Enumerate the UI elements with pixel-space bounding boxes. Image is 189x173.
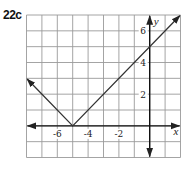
x-tick-label: -6 — [53, 129, 62, 139]
coordinate-graph: xy -6-4-2642 — [0, 0, 189, 173]
y-tick-label: 6 — [140, 26, 146, 36]
x-tick-label: -4 — [84, 129, 93, 139]
grid-lines — [27, 15, 181, 158]
tick-labels: -6-4-2642 — [50, 26, 147, 139]
y-tick-label: 4 — [140, 58, 146, 68]
x-tick-label: -2 — [115, 129, 124, 139]
y-axis-label: y — [153, 15, 159, 27]
y-tick-label: 2 — [140, 90, 146, 100]
x-axis-label: x — [173, 125, 179, 137]
